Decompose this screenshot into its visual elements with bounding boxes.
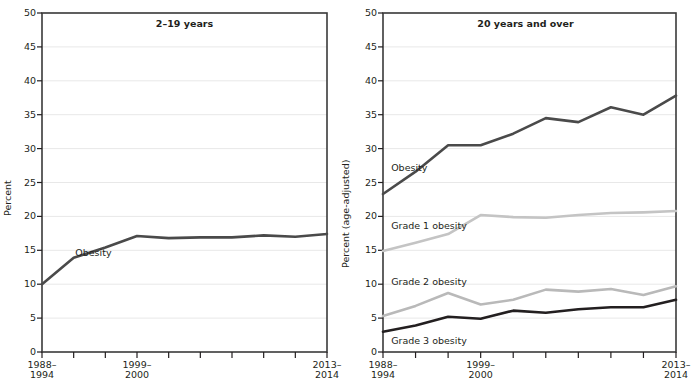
- y-axis-tick-label: 10: [347, 278, 377, 289]
- x-axis-tick-label: 2013–2014: [646, 360, 695, 380]
- data-line: [383, 211, 676, 251]
- series-label: Grade 3 obesity: [391, 335, 467, 346]
- series-label: Obesity: [75, 247, 111, 258]
- series-label: Grade 1 obesity: [391, 220, 467, 231]
- data-line: [383, 96, 676, 194]
- y-axis-tick-label: 25: [6, 177, 36, 188]
- x-axis-tick-label: 1999–2000: [107, 360, 167, 380]
- y-axis-tick-label: 50: [347, 7, 377, 18]
- y-axis-tick-label: 15: [347, 244, 377, 255]
- chart-svg-left: [0, 0, 338, 389]
- y-axis-tick-label: 45: [6, 41, 36, 52]
- series-label: Obesity: [391, 162, 427, 173]
- y-axis-tick-label: 35: [6, 109, 36, 120]
- data-line: [383, 300, 676, 332]
- x-axis-tick-label: 1988–1994: [353, 360, 413, 380]
- y-axis-tick-label: 0: [6, 346, 36, 357]
- y-axis-tick-label: 5: [347, 312, 377, 323]
- y-axis-tick-label: 50: [6, 7, 36, 18]
- y-axis-tick-label: 5: [6, 312, 36, 323]
- y-axis-tick-label: 35: [347, 109, 377, 120]
- series-label: Grade 2 obesity: [391, 276, 467, 287]
- data-line: [42, 234, 327, 284]
- y-axis-tick-label: 20: [347, 210, 377, 221]
- chart-svg-right: [338, 0, 676, 389]
- x-axis-tick-label: 1988–1994: [12, 360, 72, 380]
- y-axis-tick-label: 10: [6, 278, 36, 289]
- y-axis-tick-label: 30: [6, 143, 36, 154]
- y-axis-tick-label: 45: [347, 41, 377, 52]
- y-axis-tick-label: 30: [347, 143, 377, 154]
- chart-panel-20-years-and-over: Percent (age-adjusted) 20 years and over…: [338, 0, 676, 389]
- y-axis-tick-label: 20: [6, 210, 36, 221]
- y-axis-tick-label: 40: [6, 75, 36, 86]
- chart-panel-2-19-years: Percent 2–19 years 051015202530354045501…: [0, 0, 338, 389]
- x-axis-tick-label: 1999–2000: [451, 360, 511, 380]
- y-axis-tick-label: 40: [347, 75, 377, 86]
- y-axis-tick-label: 0: [347, 346, 377, 357]
- y-axis-tick-label: 25: [347, 177, 377, 188]
- y-axis-tick-label: 15: [6, 244, 36, 255]
